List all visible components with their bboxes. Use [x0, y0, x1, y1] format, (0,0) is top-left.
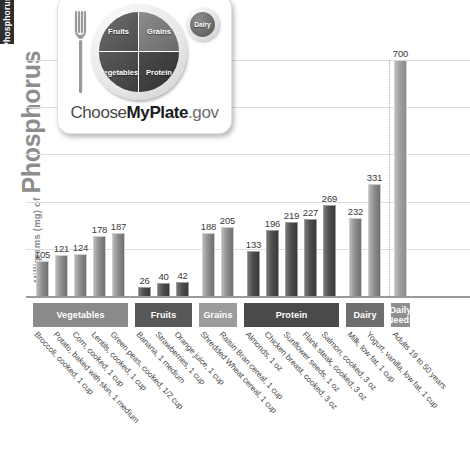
bar-value-label: 269 — [322, 193, 337, 204]
category-band-grains[interactable]: Grains — [199, 303, 237, 327]
bar-value-label: 133 — [246, 239, 261, 250]
bar[interactable] — [112, 233, 125, 296]
bar[interactable] — [74, 254, 87, 296]
bar-slot: 133 — [247, 60, 260, 296]
bar[interactable] — [285, 222, 298, 296]
infographic-root: Phosphorus Milligrams (mg) of Phosphorus… — [0, 0, 470, 472]
bar[interactable] — [368, 184, 381, 296]
bar[interactable] — [176, 282, 189, 296]
myplate-logo: ChooseMyPlate.gov — [58, 103, 231, 123]
section-tab-label: Phosphorus — [2, 0, 12, 44]
bar[interactable] — [157, 283, 170, 296]
bar-slot: 227 — [304, 60, 317, 296]
bar[interactable] — [202, 233, 215, 296]
bar-slot: 219 — [285, 60, 298, 296]
dairy-label: Dairy — [190, 12, 215, 37]
bar[interactable] — [247, 251, 260, 296]
bar-value-label: 105 — [35, 249, 50, 260]
bar[interactable] — [221, 227, 234, 296]
bar[interactable] — [349, 218, 362, 296]
plate-quadrant-fruits: Fruits — [99, 12, 139, 52]
category-band-protein[interactable]: Protein — [244, 303, 339, 327]
plate-quadrant-protein: Protein — [139, 52, 179, 92]
bar-slot: 232 — [349, 60, 362, 296]
bar-value-label: 227 — [303, 207, 318, 218]
axis-baseline — [26, 296, 470, 298]
bar-slot: 269 — [323, 60, 336, 296]
myplate-graphic: Fruits Grains Vegetables Protein Dairy C… — [57, 0, 232, 134]
category-band-vegetables[interactable]: Vegetables — [33, 303, 128, 327]
plate-illustration: Fruits Grains Vegetables Protein — [91, 4, 187, 100]
logo-prefix: Choose — [70, 103, 126, 122]
logo-suffix: .gov — [188, 103, 219, 122]
bar[interactable] — [323, 205, 336, 296]
bar-value-label: 124 — [73, 242, 88, 253]
bar-value-label: 232 — [348, 206, 363, 217]
bar-value-label: 700 — [393, 48, 408, 59]
bar-slot: 196 — [266, 60, 279, 296]
bar-slot: 331 — [368, 60, 381, 296]
bar[interactable] — [394, 60, 407, 296]
section-tab: Phosphorus — [0, 0, 14, 44]
bar-value-label: 26 — [139, 275, 149, 286]
bar-value-label: 42 — [177, 270, 187, 281]
bar-value-label: 205 — [220, 215, 235, 226]
category-band-dairy[interactable]: Dairy — [346, 303, 384, 327]
bar-value-label: 40 — [158, 271, 168, 282]
bar[interactable] — [138, 287, 151, 296]
fork-icon — [74, 10, 87, 95]
bar-slot: 700 — [394, 60, 407, 296]
bar-value-label: 178 — [92, 224, 107, 235]
bar-value-label: 188 — [201, 221, 216, 232]
bar-value-label: 219 — [284, 210, 299, 221]
logo-bold: MyPlate — [127, 103, 188, 122]
plate-sections: Fruits Grains Vegetables Protein — [99, 12, 179, 92]
bar[interactable] — [36, 261, 49, 296]
daily-needs-separator — [389, 60, 390, 298]
dairy-cup: Dairy — [186, 8, 219, 41]
category-band-daily-needs[interactable]: Daily Needs — [391, 303, 410, 327]
bar-value-label: 196 — [265, 218, 280, 229]
bar[interactable] — [93, 236, 106, 296]
bar[interactable] — [304, 219, 317, 296]
bar-value-label: 187 — [111, 221, 126, 232]
bar[interactable] — [55, 255, 68, 296]
bar[interactable] — [266, 230, 279, 296]
category-band-fruits[interactable]: Fruits — [135, 303, 192, 327]
bar-value-label: 331 — [367, 172, 382, 183]
bar-value-label: 121 — [54, 243, 69, 254]
x-axis-labels: Broccoli, cooked, 1 cupPotato, baked wit… — [0, 330, 470, 472]
plate-quadrant-vegetables: Vegetables — [99, 52, 139, 92]
plate-quadrant-grains: Grains — [139, 12, 179, 52]
bar-slot: 105 — [36, 60, 49, 296]
